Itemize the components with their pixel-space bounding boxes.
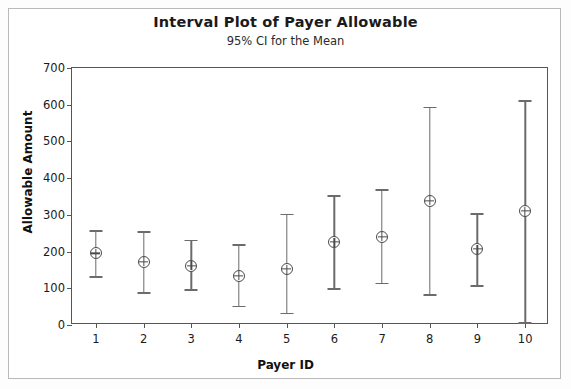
chart-subtitle: 95% CI for the Mean	[0, 34, 571, 48]
x-axis-tick-mark	[334, 323, 335, 328]
error-bar-lower-cap	[137, 292, 150, 294]
error-bar-upper-cap	[89, 230, 102, 232]
error-bar-upper-cap	[185, 240, 198, 242]
x-axis-tick-mark	[96, 323, 97, 328]
error-bar-upper-cap	[519, 100, 532, 102]
mean-marker	[471, 243, 483, 255]
error-bar-upper-cap	[328, 195, 341, 197]
error-bar-lower-cap	[423, 294, 436, 296]
mean-marker	[138, 256, 150, 268]
error-bar-lower-cap	[376, 283, 389, 285]
y-axis-label: Allowable Amount	[21, 82, 35, 262]
error-bar-upper-cap	[423, 107, 436, 109]
x-axis-tick-mark	[191, 323, 192, 328]
mean-marker	[376, 231, 388, 243]
error-bar-lower-cap	[519, 322, 532, 324]
y-axis-tick-mark	[67, 68, 72, 69]
x-axis-tick-mark	[382, 323, 383, 328]
mean-marker	[281, 263, 293, 275]
mean-marker	[328, 236, 340, 248]
error-bar-upper-cap	[376, 189, 389, 191]
mean-marker	[424, 195, 436, 207]
error-bar-lower-cap	[232, 306, 245, 308]
y-axis-tick-mark	[67, 105, 72, 106]
x-axis-label: Payer ID	[0, 358, 571, 372]
y-axis-tick-mark	[67, 288, 72, 289]
y-axis-tick-mark	[67, 141, 72, 142]
x-axis-tick-mark	[477, 323, 478, 328]
y-axis-tick-mark	[67, 178, 72, 179]
error-bar-lower-cap	[89, 276, 102, 278]
error-bar-upper-cap	[280, 214, 293, 216]
error-bar-lower-cap	[471, 285, 484, 287]
error-bar-lower-cap	[185, 289, 198, 291]
error-bar-lower-cap	[328, 288, 341, 290]
plot-area: 010020030040050060070012345678910	[71, 67, 548, 324]
x-axis-tick-mark	[239, 323, 240, 328]
chart-page: Interval Plot of Payer Allowable 95% CI …	[0, 0, 571, 389]
error-bar-upper-cap	[137, 231, 150, 233]
x-axis-tick-mark	[430, 323, 431, 328]
x-axis-tick-mark	[144, 323, 145, 328]
mean-marker	[233, 270, 245, 282]
mean-marker	[519, 205, 531, 217]
error-bar-upper-cap	[232, 244, 245, 246]
y-axis-tick-mark	[67, 252, 72, 253]
y-axis-tick-mark	[67, 215, 72, 216]
chart-title: Interval Plot of Payer Allowable	[0, 14, 571, 30]
mean-marker	[90, 247, 102, 259]
x-axis-tick-mark	[287, 323, 288, 328]
y-axis-tick-mark	[67, 325, 72, 326]
error-bar-lower-cap	[280, 313, 293, 315]
x-axis-tick-mark	[525, 323, 526, 328]
mean-marker	[185, 260, 197, 272]
error-bar-upper-cap	[471, 213, 484, 215]
